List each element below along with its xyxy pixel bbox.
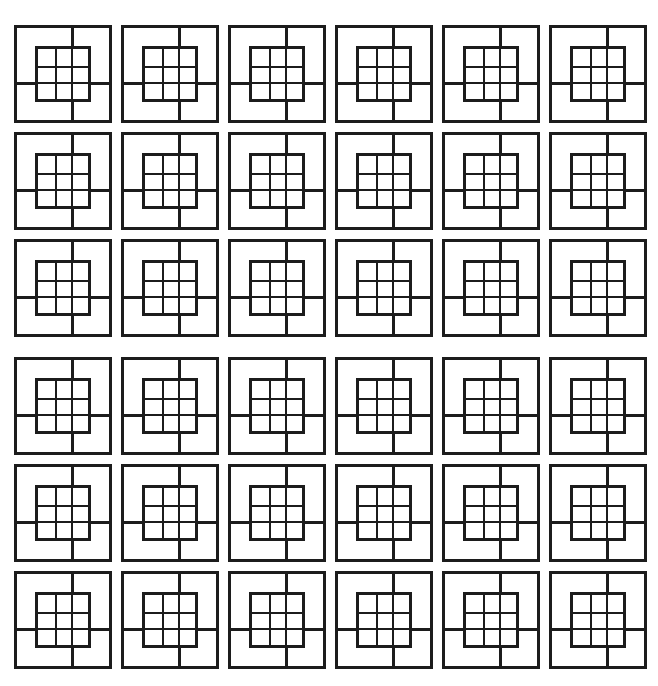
inner-grid-cell — [499, 414, 516, 431]
tile-stub-right — [519, 296, 540, 299]
inner-grid-cell — [162, 49, 179, 66]
inner-grid-cell — [590, 189, 607, 206]
tile-stub-right — [626, 189, 647, 192]
motif-tile — [442, 357, 540, 455]
inner-grid-cell — [162, 398, 179, 415]
tile-stub-top — [392, 25, 395, 46]
inner-grid-cell — [499, 82, 516, 99]
inner-grid-cell — [483, 82, 500, 99]
inner-grid-cell — [483, 49, 500, 66]
inner-grid-cell — [162, 280, 179, 297]
tile-stub-bottom — [178, 434, 181, 455]
inner-grid-cell — [573, 628, 590, 645]
inner-grid-cell — [466, 156, 483, 173]
inner-grid-cell — [573, 488, 590, 505]
inner-grid-cell — [252, 156, 269, 173]
motif-tile — [228, 464, 326, 562]
inner-grid-cell — [466, 381, 483, 398]
inner-grid-cell — [285, 414, 302, 431]
inner-grid-cell — [606, 82, 623, 99]
inner-grid-cell — [285, 595, 302, 612]
inner-grid-cell — [483, 296, 500, 313]
inner-grid-cell — [466, 595, 483, 612]
tile-stub-right — [305, 296, 326, 299]
tile-stub-right — [519, 521, 540, 524]
inner-grid-cell — [359, 381, 376, 398]
tile-stub-top — [499, 132, 502, 153]
inner-grid-cell — [38, 521, 55, 538]
tile-inner-grid — [142, 260, 198, 316]
inner-grid-cell — [359, 398, 376, 415]
tile-stub-right — [412, 296, 433, 299]
tile-stub-bottom — [392, 434, 395, 455]
inner-grid-cell — [359, 595, 376, 612]
tile-stub-top — [499, 357, 502, 378]
inner-grid-cell — [162, 521, 179, 538]
tile-inner-grid — [570, 260, 626, 316]
tile-stub-left — [14, 189, 35, 192]
motif-tile — [228, 357, 326, 455]
motif-tile — [442, 239, 540, 337]
inner-grid-cell — [573, 296, 590, 313]
inner-grid-cell — [606, 49, 623, 66]
inner-grid-cell — [71, 381, 88, 398]
inner-grid-cell — [55, 82, 72, 99]
inner-grid-cell — [162, 66, 179, 83]
inner-grid-cell — [573, 595, 590, 612]
inner-grid-cell — [71, 49, 88, 66]
tile-stub-left — [549, 414, 570, 417]
tile-stub-bottom — [392, 541, 395, 562]
inner-grid-cell — [392, 414, 409, 431]
tile-inner-grid — [142, 485, 198, 541]
inner-grid-cell — [499, 66, 516, 83]
motif-tile — [14, 464, 112, 562]
tile-stub-left — [335, 521, 356, 524]
tile-stub-right — [412, 628, 433, 631]
inner-grid-cell — [178, 488, 195, 505]
inner-grid-cell — [606, 381, 623, 398]
inner-grid-cell — [392, 612, 409, 629]
inner-grid-cell — [38, 381, 55, 398]
inner-grid-cell — [590, 414, 607, 431]
tile-stub-left — [228, 82, 249, 85]
inner-grid-cell — [590, 398, 607, 415]
inner-grid-cell — [590, 280, 607, 297]
tile-inner-grid — [249, 378, 305, 434]
tile-stub-left — [442, 628, 463, 631]
tile-stub-right — [91, 521, 112, 524]
inner-grid-cell — [392, 398, 409, 415]
inner-grid-cell — [606, 173, 623, 190]
inner-grid-cell — [38, 505, 55, 522]
tile-stub-left — [442, 82, 463, 85]
inner-grid-cell — [252, 173, 269, 190]
inner-grid-cell — [162, 612, 179, 629]
inner-grid-cell — [483, 173, 500, 190]
tile-stub-top — [285, 25, 288, 46]
inner-grid-cell — [573, 381, 590, 398]
inner-grid-cell — [499, 296, 516, 313]
tile-inner-grid — [249, 485, 305, 541]
motif-tile — [549, 357, 647, 455]
tile-stub-bottom — [178, 316, 181, 337]
motif-tile — [335, 571, 433, 669]
inner-grid-cell — [590, 263, 607, 280]
tile-inner-grid — [35, 260, 91, 316]
inner-grid-cell — [499, 381, 516, 398]
tile-inner-grid — [570, 485, 626, 541]
inner-grid-cell — [606, 505, 623, 522]
inner-grid-cell — [573, 521, 590, 538]
inner-grid-cell — [499, 173, 516, 190]
tile-stub-left — [121, 82, 142, 85]
motif-tile — [335, 357, 433, 455]
inner-grid-cell — [71, 156, 88, 173]
inner-grid-cell — [145, 414, 162, 431]
inner-grid-cell — [252, 505, 269, 522]
inner-grid-cell — [269, 66, 286, 83]
inner-grid-cell — [162, 173, 179, 190]
inner-grid-cell — [162, 296, 179, 313]
tile-stub-top — [285, 239, 288, 260]
inner-grid-cell — [376, 628, 393, 645]
pattern-canvas — [0, 0, 658, 686]
inner-grid-cell — [359, 521, 376, 538]
tile-stub-right — [305, 189, 326, 192]
